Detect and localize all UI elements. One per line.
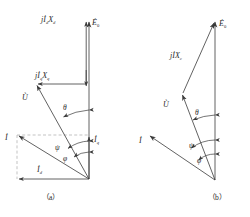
vector-jixc-b bbox=[183, 23, 214, 93]
vector-i-a bbox=[19, 136, 89, 179]
label-i-b: İ bbox=[138, 136, 142, 145]
vector-u-a bbox=[37, 86, 89, 180]
angle-arc-theta-a bbox=[64, 110, 90, 117]
phasor-diagram-svg: Ė0 jİdXd jİqXq Ù İ İq İd θ ψ φ （a） bbox=[0, 0, 250, 217]
label-theta-a: θ bbox=[63, 103, 67, 112]
caption-a: （a） bbox=[42, 193, 59, 202]
label-psi-b: ψ bbox=[189, 141, 194, 150]
label-u-b: Ù bbox=[163, 99, 170, 109]
label-i-a: İ bbox=[4, 133, 8, 142]
label-phi-a: φ bbox=[63, 154, 67, 163]
label-phi-b: φ bbox=[197, 156, 201, 165]
label-theta-b: θ bbox=[195, 108, 199, 117]
subfigure-b: Ė0 jİXc Ù İ θ ψ φ （b） bbox=[138, 19, 227, 202]
label-id-a: İd bbox=[36, 165, 43, 175]
caption-b: （b） bbox=[208, 193, 226, 202]
label-u-a: Ù bbox=[22, 92, 29, 102]
subfigure-a: Ė0 jİdXd jİqXq Ù İ İq İd θ ψ φ （a） bbox=[4, 15, 100, 202]
label-iq-a: İq bbox=[93, 135, 100, 145]
phasor-diagram-figure: Ė0 jİdXd jİqXq Ù İ İq İd θ ψ φ （a） bbox=[0, 0, 250, 217]
angle-arc-psi-b bbox=[192, 140, 216, 148]
label-jixc-b: jİXc bbox=[169, 51, 182, 61]
vector-i-b bbox=[150, 136, 215, 180]
label-jiqxq-a: jİqXq bbox=[34, 71, 50, 81]
label-e0-a: Ė0 bbox=[91, 18, 100, 28]
label-jidxd-a: jİdXd bbox=[40, 15, 56, 25]
label-psi-a: ψ bbox=[55, 143, 60, 152]
label-e0-b: Ė0 bbox=[218, 19, 227, 29]
vector-u-b bbox=[183, 95, 216, 180]
